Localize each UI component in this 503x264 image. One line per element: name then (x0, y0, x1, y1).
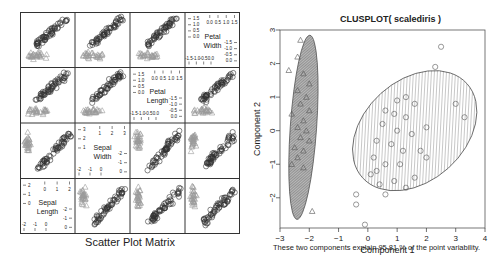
tick-label: 1.5 (231, 20, 238, 25)
tick-label: 0.0 (226, 58, 233, 63)
y-axis: −2−10123 (268, 27, 280, 202)
clusplot-title: CLUSPLOT( scalediris ) (340, 14, 441, 24)
tick-label: -0.5 (169, 108, 177, 113)
variable-label: Width (204, 42, 222, 49)
tick-label: 1.0 (138, 78, 145, 83)
tick-label: 0.5 (138, 84, 145, 89)
tick-label: -0.5 (200, 56, 208, 61)
variability-note: These two components explain 95.81 % of … (250, 243, 503, 252)
variable-label: Width (94, 153, 112, 160)
scatter-plot-matrix-canvas: PetalWidth0.00.51.01.50.00.51.01.5-1.5-1… (20, 12, 240, 234)
tick-label: 0.5 (160, 76, 167, 81)
y-tick-label: 3 (268, 27, 277, 32)
clusplot-canvas: CLUSPLOT( scalediris )−3−2−101234−2−1012… (250, 0, 503, 264)
scatter-plot-matrix-caption: Scatter Plot Matrix (20, 236, 240, 248)
circle-point (433, 64, 438, 69)
tick-label: -1.5 (224, 40, 232, 45)
triangle-point (298, 37, 304, 42)
y-tick-label: −1 (268, 159, 277, 169)
x-tick-label: −1 (334, 234, 344, 243)
tick-label: 1.0 (223, 20, 230, 25)
tick-label: -2 (118, 151, 122, 156)
tick-label: -1 (33, 222, 37, 227)
x-tick-label: −3 (275, 234, 285, 243)
variable-label: Sepal (94, 144, 112, 152)
tick-label: 0.0 (171, 114, 178, 119)
tick-label: -2 (77, 167, 81, 172)
circle-point (354, 192, 359, 197)
y-axis-label: Component 2 (252, 102, 262, 156)
y-tick-label: 2 (268, 61, 277, 66)
cluster-ellipse-1 (284, 34, 323, 220)
circle-point (354, 202, 359, 207)
triangle-point (286, 67, 292, 72)
cluster-ellipse-2 (329, 46, 501, 215)
tick-label: 1.5 (193, 16, 200, 21)
tick-label: 0.0 (207, 20, 214, 25)
variable-label: Petal (150, 88, 166, 95)
tick-label: -1.0 (224, 46, 232, 51)
tick-label: 0.0 (193, 34, 200, 39)
tick-label: 0.0 (152, 76, 159, 81)
tick-label: 1.5 (176, 76, 183, 81)
tick-label: 0.0 (153, 111, 160, 116)
x-tick-label: 2 (424, 234, 429, 243)
tick-label: 0.0 (138, 90, 145, 95)
x-tick-label: 1 (395, 234, 400, 243)
tick-label: -2 (22, 222, 26, 227)
circle-point (383, 192, 388, 197)
tick-label: -1 (88, 167, 92, 172)
x-tick-label: 4 (483, 234, 488, 243)
tick-label: 0.5 (193, 28, 200, 33)
variable-label: Length (147, 97, 169, 105)
tick-label: 1.0 (193, 22, 200, 27)
tick-label: 0.5 (215, 20, 222, 25)
variable-label: Sepal (39, 199, 57, 207)
tick-label: -1 (63, 216, 67, 221)
y-tick-label: 0 (268, 128, 277, 133)
tick-label: -1.0 (169, 102, 177, 107)
tick-label: 1.5 (138, 72, 145, 77)
tick-label: 0.0 (208, 56, 215, 61)
circle-point (362, 222, 367, 227)
x-tick-label: −2 (305, 234, 315, 243)
x-tick-label: 0 (366, 234, 371, 243)
tick-label: 1.0 (168, 76, 175, 81)
scatter-plot-matrix: PetalWidth0.00.51.01.50.00.51.01.5-1.5-1… (20, 12, 240, 234)
variable-label: Length (37, 208, 59, 216)
tick-label: -0.5 (224, 52, 232, 57)
variable-label: Petal (205, 33, 221, 40)
x-tick-label: 3 (453, 234, 458, 243)
tick-label: -1 (118, 160, 122, 165)
clusplot: CLUSPLOT( scalediris )−3−2−101234−2−1012… (250, 0, 503, 264)
triangle-point (309, 208, 315, 213)
circle-point (438, 44, 443, 49)
tick-label: -2 (63, 207, 67, 212)
tick-label: -1.5 (169, 96, 177, 101)
x-axis: −3−2−101234 (275, 228, 487, 243)
y-tick-label: −2 (268, 193, 277, 203)
tick-label: -0.5 (145, 111, 153, 116)
y-tick-label: 1 (268, 94, 277, 99)
